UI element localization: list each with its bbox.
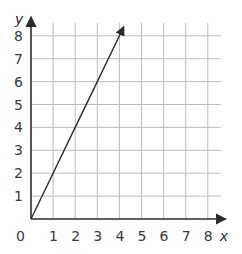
- x-tick-label: 3: [93, 228, 102, 244]
- y-tick-label: 6: [14, 74, 23, 90]
- x-tick-label: 1: [49, 228, 58, 244]
- x-tick-label: 7: [182, 228, 191, 244]
- x-tick-label: 0: [16, 228, 25, 244]
- axes: [31, 17, 226, 219]
- y-axis-label: y: [14, 11, 24, 27]
- y-tick-label: 3: [14, 142, 23, 158]
- grid-lines: [31, 23, 221, 219]
- x-tick-label: 4: [115, 228, 124, 244]
- data-line: [31, 27, 124, 219]
- chart: 01234567812345678xy: [0, 0, 242, 254]
- y-tick-label: 7: [14, 51, 23, 67]
- x-tick-label: 5: [138, 228, 147, 244]
- x-tick-label: 8: [204, 228, 213, 244]
- series-line: [31, 27, 124, 219]
- x-tick-label: 6: [160, 228, 169, 244]
- y-tick-label: 4: [14, 119, 23, 135]
- y-tick-label: 8: [14, 28, 23, 44]
- y-tick-label: 5: [14, 97, 23, 113]
- y-tick-label: 2: [14, 165, 23, 181]
- x-axis-label: x: [219, 228, 229, 244]
- y-tick-label: 1: [14, 188, 23, 204]
- x-tick-label: 2: [71, 228, 80, 244]
